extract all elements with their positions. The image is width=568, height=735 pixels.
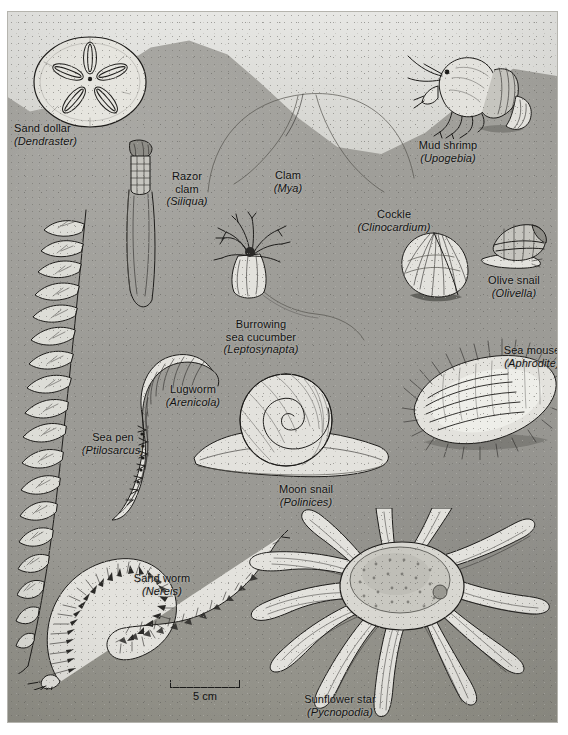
label-razor-clam: Razor clam (Siliqua) [148,170,226,208]
label-sea-cucumber-common-1: Burrowing [206,318,316,331]
label-sea-cucumber-common-2: sea cucumber [206,331,316,344]
label-sea-cucumber: Burrowing sea cucumber (Leptosynapta) [206,318,316,356]
label-clam-scientific: (Mya) [253,182,323,195]
label-sand-worm-common: Sand worm [116,572,208,585]
label-olive-snail: Olive snail (Olivella) [468,274,557,299]
label-razor-clam-common-1: Razor [148,170,226,183]
label-razor-clam-common-2: clam [148,183,226,196]
illustration-plate: Sand dollar (Dendraster) [8,12,557,722]
label-cockle-scientific: (Clinocardium) [335,221,453,234]
label-mud-shrimp-common: Mud shrimp [393,139,503,152]
label-sand-dollar-common: Sand dollar [14,122,77,135]
label-mud-shrimp-scientific: (Upogebia) [393,152,503,165]
label-moon-snail: Moon snail (Polinices) [256,483,356,508]
scale-bar-label: 5 cm [170,690,240,702]
label-sand-dollar-scientific: (Dendraster) [14,135,77,148]
olive-snail-organism [474,217,554,277]
label-sea-mouse: Sea mouse (Aphrodite) [484,344,557,369]
sunflower-star-organism [244,508,557,720]
cockle-organism [390,225,476,305]
sand-dollar-organism [30,32,150,132]
label-moon-snail-common: Moon snail [256,483,356,496]
scale-bar-line [170,680,240,688]
label-sand-worm: Sand worm (Nereis) [116,572,208,597]
label-olive-snail-scientific: (Olivella) [468,287,557,300]
moon-snail-organism [186,372,396,487]
label-sunflower-star-common: Sunflower star [280,693,400,706]
label-olive-snail-common: Olive snail [468,274,557,287]
label-clam: Clam (Mya) [253,169,323,194]
label-sand-dollar: Sand dollar (Dendraster) [14,122,77,147]
label-sunflower-star-scientific: (Pycnopodia) [280,706,400,719]
label-mud-shrimp: Mud shrimp (Upogebia) [393,139,503,164]
scale-bar: 5 cm [170,680,240,702]
label-sand-worm-scientific: (Nereis) [116,585,208,598]
label-sea-mouse-scientific: (Aphrodite) [484,357,557,370]
label-sunflower-star: Sunflower star (Pycnopodia) [280,693,400,718]
label-razor-clam-scientific: (Siliqua) [148,195,226,208]
label-cockle: Cockle (Clinocardium) [335,208,453,233]
label-clam-common: Clam [253,169,323,182]
label-sea-mouse-common: Sea mouse [484,344,557,357]
mud-shrimp-organism [400,34,535,139]
label-cockle-common: Cockle [335,208,453,221]
label-sea-cucumber-scientific: (Leptosynapta) [206,343,316,356]
label-moon-snail-scientific: (Polinices) [256,496,356,509]
